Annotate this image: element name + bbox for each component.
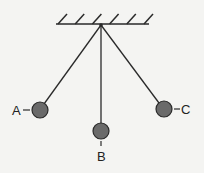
bob-b: [93, 123, 109, 139]
label-a: A: [12, 103, 21, 118]
pendulum-diagram: A B C: [0, 0, 204, 173]
label-b: B: [97, 149, 106, 164]
bob-c: [156, 101, 172, 117]
label-c: C: [181, 102, 190, 117]
bob-a: [32, 102, 48, 118]
